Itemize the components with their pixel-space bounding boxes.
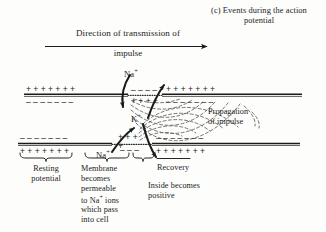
bottom-membrane-lines xyxy=(18,143,300,145)
potassium-label-charge: + xyxy=(137,112,141,119)
membrane-permeable-label: Membrane becomes permeable to Na+ ions w… xyxy=(81,164,139,225)
inside-positive-line2: positive xyxy=(148,191,228,201)
inside-positive-line1: Inside becomes xyxy=(148,181,228,191)
propagation-label-line1: Propagation xyxy=(208,107,248,117)
top-membrane-lines xyxy=(24,94,302,96)
sodium-influx-arrow-bottom xyxy=(112,128,134,152)
potassium-label: K+ xyxy=(131,112,141,124)
resting-potential-line2: potential xyxy=(18,174,74,184)
membrane-label-line5: which pass xyxy=(81,205,139,215)
membrane-label-line2: becomes xyxy=(81,174,139,184)
membrane-label-line4: to Na+ ions xyxy=(81,194,139,206)
inside-positive-label: Inside becomes positive xyxy=(148,181,228,201)
resting-potential-label: Resting potential xyxy=(18,164,74,184)
membrane-label-line4a: to Na xyxy=(81,195,99,204)
sodium-label-bottom: Na+ xyxy=(96,148,110,160)
brace-inside-positive xyxy=(133,153,154,162)
sodium-label-top-charge: + xyxy=(134,67,138,74)
membrane-label-line1: Membrane xyxy=(81,164,139,174)
propagation-label: Propagation of impulse xyxy=(208,107,248,127)
sodium-label-bottom-text: Na xyxy=(96,150,106,160)
resting-potential-line1: Resting xyxy=(18,164,74,174)
sodium-label-bottom-charge: + xyxy=(106,148,110,155)
sodium-label-top-text: Na xyxy=(124,69,134,79)
membrane-label-line6: into cell xyxy=(81,215,139,225)
sodium-label-top: Na+ xyxy=(124,67,138,79)
brace-resting-potential xyxy=(20,153,72,162)
figure-canvas: (c) Events during the action potential D… xyxy=(0,0,326,232)
propagation-label-line2: of impulse xyxy=(208,117,248,127)
recovery-label: Recovery xyxy=(157,163,189,173)
membrane-label-line4b: ions xyxy=(103,195,119,204)
membrane-label-line3: permeable xyxy=(81,184,139,194)
sodium-influx-arrow-top xyxy=(122,75,130,107)
potassium-efflux-arrow-top xyxy=(148,85,164,118)
